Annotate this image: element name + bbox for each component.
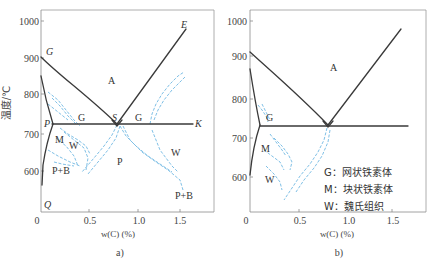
legend-item-W: W：魏氏组织 <box>324 200 384 212</box>
region-label-P: P <box>117 156 123 167</box>
y-tick-label: 800 <box>24 89 39 100</box>
legend-item-G: G：网状铁素体 <box>324 166 392 178</box>
line-GS <box>250 52 328 125</box>
region-label-G: G <box>266 112 273 123</box>
line-GP <box>250 69 260 125</box>
point-label-Q: Q <box>44 199 52 210</box>
region-label-PB: P+B <box>175 190 193 201</box>
x-tick-label: 0.5 <box>294 215 307 226</box>
point-label-G: G <box>46 46 53 57</box>
point-label-P: P <box>43 118 50 129</box>
x-axis-label: w(C) (%) <box>101 229 135 239</box>
panel-a: 1000 900 800 700 600 0 0.5 1.0 1.5 温度/℃ … <box>0 10 214 259</box>
y-tick-label: 700 <box>24 129 39 140</box>
point-labels: G E S P K Q <box>43 19 203 210</box>
y-axis-label: 温度/℃ <box>0 86 12 121</box>
line-SE <box>117 29 186 124</box>
figure-canvas: 1000 900 800 700 600 0 0.5 1.0 1.5 温度/℃ … <box>0 0 431 262</box>
y-tick-label: 600 <box>24 166 39 177</box>
x-tick-label: 1.0 <box>343 215 356 226</box>
panel-b: 1000 900 800 700 600 0 0.5 1.0 1.5 w(C) … <box>227 10 426 259</box>
panel-caption: a) <box>116 247 124 259</box>
x-tick-label: 1.5 <box>174 215 187 226</box>
x-tick-label: 0 <box>244 215 249 226</box>
panel-b-y-ticks: 1000 900 800 700 600 <box>227 16 253 183</box>
x-tick-label: 1.5 <box>387 215 400 226</box>
panel-a-y-ticks: 1000 900 800 700 600 <box>19 16 44 177</box>
y-tick-label: 600 <box>232 172 247 183</box>
x-tick-label: 0.5 <box>84 215 97 226</box>
point-label-K: K <box>194 118 203 129</box>
legend: G：网状铁素体 M：块状铁素体 W：魏氏组织 <box>324 166 393 212</box>
region-label-M: M <box>261 143 270 154</box>
point-label-E: E <box>180 19 187 30</box>
line-PQ <box>250 125 260 175</box>
panel-a-x-ticks: 0 0.5 1.0 1.5 <box>35 209 187 226</box>
line-SE <box>328 29 401 125</box>
region-label-A: A <box>108 75 116 86</box>
y-tick-label: 700 <box>232 133 247 144</box>
x-tick-label: 0 <box>35 215 40 226</box>
region-label-M: M <box>55 134 64 145</box>
panel-a-axes <box>41 10 214 212</box>
region-label-W: W <box>69 140 79 151</box>
x-tick-label: 1.0 <box>133 215 146 226</box>
y-tick-label: 900 <box>24 53 39 64</box>
y-tick-label: 1000 <box>227 16 247 27</box>
panel-a-frame <box>41 10 214 212</box>
region-label-W: W <box>171 147 181 158</box>
line-GP <box>41 76 53 124</box>
x-axis-label: w(C) (%) <box>320 229 354 239</box>
region-labels: A G G M W P W P+B P+B <box>52 75 193 201</box>
point-label-S: S <box>112 112 117 123</box>
region-label-G: G <box>135 112 142 123</box>
y-tick-label: 800 <box>232 94 247 105</box>
legend-item-M: M：块状铁素体 <box>324 183 393 195</box>
region-label-G: G <box>78 112 85 123</box>
region-label-PB: P+B <box>52 165 70 176</box>
region-label-W: W <box>265 174 275 185</box>
y-tick-label: 900 <box>232 51 247 62</box>
y-tick-label: 1000 <box>19 16 39 27</box>
phase-boundaries <box>250 29 408 175</box>
panel-caption: b) <box>335 247 343 259</box>
region-label-A: A <box>330 62 338 73</box>
